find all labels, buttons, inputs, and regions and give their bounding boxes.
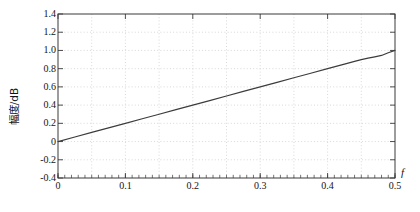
x-tick-label: 0.2 bbox=[187, 180, 200, 192]
data-series-line-0 bbox=[58, 50, 395, 141]
x-tick-label: 0.1 bbox=[119, 180, 132, 192]
x-tick-label: 0.3 bbox=[254, 180, 267, 192]
x-tick-label: 0.5 bbox=[389, 180, 402, 192]
chart-figure: 幅度/dB -0.4-0.200.20.40.60.81.01.21.4 00.… bbox=[0, 0, 420, 212]
data-series-group bbox=[58, 50, 395, 141]
x-tick-label: 0 bbox=[56, 180, 61, 192]
x-axis-tick-labels: 00.10.20.30.40.5 bbox=[0, 180, 420, 196]
x-tick-label: 0.4 bbox=[321, 180, 334, 192]
x-axis-label: f bbox=[401, 166, 404, 178]
